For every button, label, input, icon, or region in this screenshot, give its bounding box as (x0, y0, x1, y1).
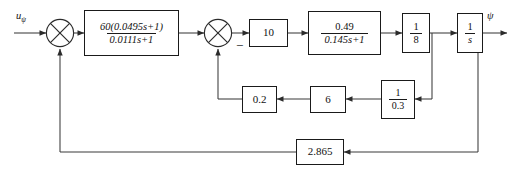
block-gain-10[interactable]: 10 (249, 19, 288, 47)
output-label: ψ (487, 10, 494, 21)
gain18-fraction: 1 8 (410, 21, 421, 46)
block-actuator[interactable]: 0.49 0.145s+1 (308, 11, 381, 55)
block-feedback-gain-0-2[interactable]: 0.2 (242, 86, 277, 113)
input-label: uψ (16, 10, 26, 24)
fb03-fraction: 1 0.3 (389, 88, 408, 112)
block-lead-lag-controller[interactable]: 60(0.0495s+1) 0.0111s+1 (84, 10, 179, 56)
controller-fraction: 60(0.0495s+1) 0.0111s+1 (97, 21, 166, 46)
block-diagram: uψ ψ − 60(0.0495s+1) 0.0111s+1 10 0.49 0… (0, 0, 511, 179)
block-gain-one-eighth[interactable]: 1 8 (402, 13, 430, 53)
integrator-fraction: 1 s (464, 21, 475, 46)
block-outer-feedback-gain[interactable]: 2.865 (296, 139, 344, 165)
block-feedback-gain-6[interactable]: 6 (310, 86, 346, 113)
block-integrator[interactable]: 1 s (457, 13, 483, 53)
block-feedback-gain-one-over-0-3[interactable]: 1 0.3 (381, 80, 415, 119)
sum2-minus-sign: − (236, 39, 243, 52)
actuator-fraction: 0.49 0.145s+1 (321, 21, 367, 46)
